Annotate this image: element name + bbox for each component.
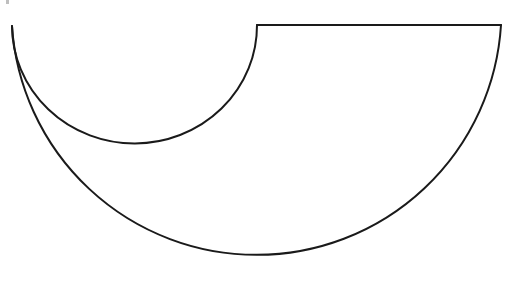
inner-arc xyxy=(12,25,257,144)
crop-artifact-mark xyxy=(6,0,9,4)
outer-arc xyxy=(12,25,501,255)
diagram-canvas xyxy=(0,0,506,282)
